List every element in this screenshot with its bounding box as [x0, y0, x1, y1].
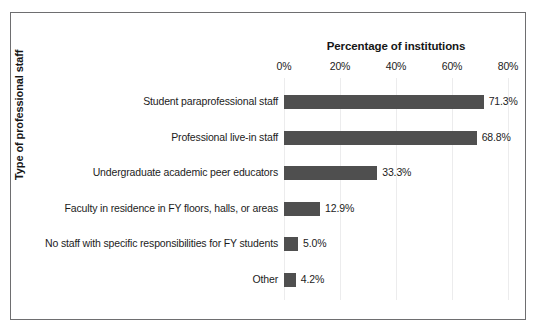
bar-row: No staff with specific responsibilities … — [0, 234, 537, 256]
bar-row: Student paraprofessional staff71.3% — [0, 92, 537, 114]
category-label-text: Faculty in residence in FY floors, halls… — [65, 202, 279, 214]
bar — [284, 202, 320, 216]
category-label-text: Undergraduate academic peer educators — [93, 166, 278, 178]
bar-row: Faculty in residence in FY floors, halls… — [0, 199, 537, 221]
x-tick-label: 0% — [260, 60, 308, 72]
bar-value-label: 71.3% — [489, 95, 518, 107]
bar-value-label: 33.3% — [382, 166, 411, 178]
bar — [284, 273, 296, 287]
bar-value-label: 12.9% — [325, 202, 354, 214]
bar-row: Undergraduate academic peer educators33.… — [0, 163, 537, 185]
x-tick-label: 40% — [372, 60, 420, 72]
bar-value-label: 5.0% — [303, 237, 326, 249]
chart-figure: Percentage of institutions 0%20%40%60%80… — [0, 0, 537, 332]
category-label-text: Professional live-in staff — [171, 131, 278, 143]
category-label-text: Other — [252, 273, 278, 285]
category-label-text: No staff with specific responsibilities … — [45, 237, 278, 249]
x-tick-label: 20% — [316, 60, 364, 72]
x-tick-label: 80% — [484, 60, 532, 72]
bar — [284, 131, 477, 145]
category-label-text: Student paraprofessional staff — [143, 95, 278, 107]
y-axis-title: Type of professional staff — [13, 50, 25, 180]
bar — [284, 166, 377, 180]
bar-value-label: 68.8% — [482, 131, 511, 143]
bar — [284, 95, 484, 109]
bar — [284, 237, 298, 251]
x-tick-label: 60% — [428, 60, 476, 72]
x-axis-tick-labels: 0%20%40%60%80% — [0, 60, 537, 76]
bar-value-label: 4.2% — [301, 273, 324, 285]
bar-row: Professional live-in staff68.8% — [0, 128, 537, 150]
bar-row: Other4.2% — [0, 270, 537, 292]
x-axis-title: Percentage of institutions — [284, 40, 508, 52]
